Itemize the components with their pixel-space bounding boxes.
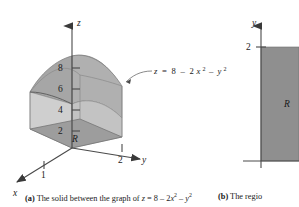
- z-tick-label-4: 4: [58, 105, 63, 115]
- figure-svg: z 2 4 6 8 y 2 x 1 R z = 8 – 2 x: [0, 0, 299, 207]
- caption-a: (a) The solid between the graph of z = 8…: [25, 192, 192, 203]
- caption-a-eq-minus1: –: [160, 194, 164, 203]
- base-region-label: R: [71, 134, 78, 144]
- caption-a-eq-minus2: –: [179, 194, 183, 203]
- region-2d-group: y 2 R: [243, 18, 299, 168]
- caption-b-tag: (b): [218, 192, 228, 201]
- figure-container: z 2 4 6 8 y 2 x 1 R z = 8 – 2 x: [0, 0, 299, 207]
- surface-equation: z = 8 – 2 x 2 – y 2: [153, 63, 226, 76]
- caption-a-eq-sign: =: [147, 194, 152, 203]
- eq-x-var: x: [195, 66, 200, 76]
- eq-sign: =: [162, 66, 167, 76]
- eq-minus-1: –: [179, 66, 185, 76]
- y-axis: [72, 148, 140, 159]
- eq-y-var: y: [216, 66, 221, 76]
- panel-b-region-label: R: [283, 99, 290, 109]
- eq-const: 8: [172, 66, 176, 76]
- caption-b-text: The regio: [230, 192, 262, 201]
- eq-x-pow: 2: [202, 66, 205, 72]
- y-axis-label: y: [141, 155, 147, 165]
- y-tick-label-2: 2: [118, 155, 123, 165]
- eq-minus-2: –: [208, 66, 214, 76]
- caption-b: (b) The regio: [218, 192, 262, 201]
- caption-a-tag: (a): [25, 194, 35, 203]
- caption-a-eq-lhs: z: [142, 194, 145, 203]
- eq-lhs: z: [153, 66, 158, 76]
- caption-a-eq-c: 8: [154, 194, 158, 203]
- eq-coef: 2: [189, 66, 193, 76]
- region-rectangle: [261, 47, 299, 161]
- caption-a-text: The solid between the graph of: [37, 194, 140, 203]
- x-axis-label: x: [12, 188, 18, 198]
- eq-y-pow: 2: [223, 66, 226, 72]
- z-tick-label-6: 6: [58, 84, 63, 94]
- z-tick-label-8: 8: [58, 63, 63, 73]
- caption-a-eq-yp: 2: [189, 192, 192, 198]
- panel-b-y-axis-label: y: [251, 18, 257, 28]
- caption-a-eq-xp: 2: [174, 192, 177, 198]
- z-axis-label: z: [76, 18, 81, 28]
- z-tick-label-2: 2: [58, 126, 63, 136]
- x-tick-label-1: 1: [41, 170, 46, 180]
- panel-b-y-tick-label-2: 2: [246, 42, 251, 52]
